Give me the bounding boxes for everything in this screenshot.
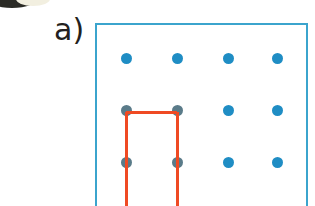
loop-segment-top[interactable] [126,111,177,114]
peg-r2-c3[interactable] [272,157,283,168]
peg-r0-c2[interactable] [223,53,234,64]
loop-segment-left[interactable] [125,112,128,206]
peg-r0-c1[interactable] [172,53,183,64]
panel-label: a) [54,15,84,45]
figure-canvas: a) [0,0,315,206]
peg-r1-c2[interactable] [223,105,234,116]
peg-r1-c3[interactable] [272,105,283,116]
peg-r2-c2[interactable] [223,157,234,168]
peg-r0-c3[interactable] [272,53,283,64]
peg-r0-c0[interactable] [121,53,132,64]
loop-segment-right[interactable] [176,112,179,206]
